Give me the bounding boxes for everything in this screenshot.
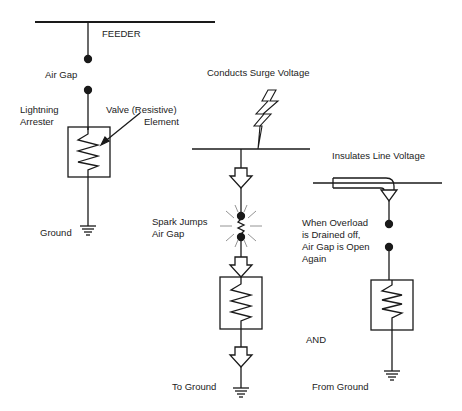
valve-label-1: Valve (Resistive) — [106, 104, 177, 116]
right-valve-zigzag — [382, 280, 402, 330]
from-ground-label: From Ground — [312, 381, 369, 393]
middle-panel — [192, 90, 310, 397]
lightning-arrester-label-2: Arrester — [20, 116, 54, 128]
to-ground-arrow-icon — [230, 347, 252, 367]
air-gap-label: Air Gap — [45, 69, 77, 81]
valve-label-2: Element — [144, 116, 179, 128]
surge-down-arrow-icon — [230, 168, 252, 188]
arrester-diagram — [0, 0, 462, 411]
lightning-bolt-icon — [254, 90, 278, 149]
ground-symbol-icon — [80, 226, 96, 235]
middle-valve-zigzag — [231, 277, 251, 329]
right-panel — [313, 178, 442, 380]
overload-label-1: When Overload — [302, 217, 368, 229]
and-label: AND — [306, 334, 326, 346]
left-panel — [35, 22, 215, 235]
feeder-label: FEEDER — [102, 28, 141, 40]
conducts-surge-label: Conducts Surge Voltage — [207, 67, 309, 79]
arrow-head-icon — [101, 137, 109, 145]
overload-label-2: is Drained off, — [302, 229, 360, 241]
right-top-electrode — [386, 221, 393, 228]
overload-label-3: Air Gap is Open — [302, 241, 370, 253]
to-ground-label: To Ground — [172, 381, 216, 393]
valve-element-zigzag — [78, 127, 98, 177]
insulator-down-arrow-icon — [381, 190, 397, 201]
overload-label-4: Again — [302, 253, 326, 265]
spark-zigzag — [238, 219, 244, 234]
spark-jumps-label-2: Air Gap — [152, 228, 184, 240]
insulates-line-voltage-label: Insulates Line Voltage — [332, 150, 425, 162]
valve-pointer-arrow — [103, 113, 140, 143]
insulator-sleeve — [333, 178, 394, 190]
air-gap-top-electrode — [85, 56, 92, 63]
spark-top-electrode — [238, 213, 245, 220]
lightning-arrester-label-1: Lightning — [20, 104, 59, 116]
middle-ground-symbol-icon — [233, 388, 249, 397]
spark-jumps-label-1: Spark Jumps — [152, 216, 207, 228]
current-down-arrow-icon — [230, 257, 252, 277]
ground-label: Ground — [40, 227, 72, 239]
right-ground-symbol-icon — [384, 371, 400, 380]
